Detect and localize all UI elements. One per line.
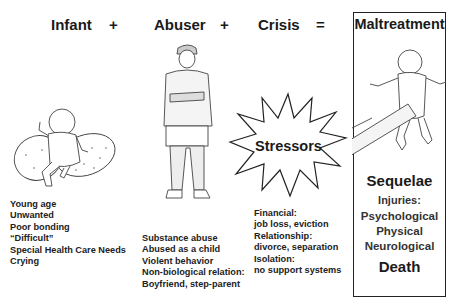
crisis-factor: no support systems — [254, 265, 341, 276]
infant-factors-list: Young age Unwanted Poor bonding “Difficu… — [10, 199, 126, 267]
crisis-factors-list: Financial: job loss, eviction Relationsh… — [254, 208, 341, 276]
term-abuser: Abuser — [154, 16, 206, 33]
abuser-factor: Non-biological relation: — [142, 267, 245, 278]
infant-factor: Young age — [10, 199, 126, 210]
abuser-factor: Substance abuse — [142, 233, 245, 244]
crisis-factor: Financial: — [254, 208, 341, 219]
injuries-list: Psychological Physical Neurological — [353, 209, 446, 254]
term-maltreatment: Maltreatment — [353, 16, 446, 32]
infant-factor: Crying — [10, 256, 126, 267]
injury-item: Neurological — [353, 239, 446, 254]
crisis-factor: job loss, eviction — [254, 219, 341, 230]
abuser-factors-list: Substance abuse Abused as a child Violen… — [142, 233, 245, 290]
operator-plus-1: + — [109, 16, 118, 33]
infant-factor: Special Health Care Needs — [10, 245, 126, 256]
infant-illustration — [6, 100, 118, 192]
injuries-label: Injuries: — [353, 194, 446, 206]
abuser-factor: Abused as a child — [142, 244, 245, 255]
abuser-illustration — [152, 42, 222, 202]
crisis-factor: Relationship: — [254, 231, 341, 242]
infant-factor: “Difficult” — [10, 233, 126, 244]
injury-item: Physical — [353, 224, 446, 239]
injury-item: Psychological — [353, 209, 446, 224]
operator-equals: = — [316, 16, 325, 33]
infant-factor: Unwanted — [10, 210, 126, 221]
term-infant: Infant — [51, 16, 92, 33]
sequelae-title: Sequelae — [353, 172, 446, 189]
outcome-death: Death — [353, 258, 446, 275]
abuser-factor: Boyfriend, step-parent — [142, 279, 245, 290]
maltreatment-illustration — [352, 40, 448, 160]
stressors-label: Stressors — [255, 138, 322, 154]
crisis-factor: Isolation: — [254, 254, 341, 265]
crisis-factor: divorce, separation — [254, 242, 341, 253]
term-crisis: Crisis — [258, 16, 300, 33]
operator-plus-2: + — [220, 16, 229, 33]
infant-factor: Poor bonding — [10, 222, 126, 233]
abuser-factor: Violent behavior — [142, 256, 245, 267]
